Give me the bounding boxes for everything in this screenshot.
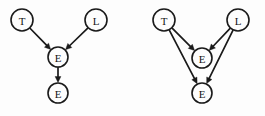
edge-l-to-e1 bbox=[66, 28, 88, 50]
node-label: T bbox=[161, 15, 168, 27]
node-label: E bbox=[55, 88, 62, 100]
edge-e1-to-e2 bbox=[55, 68, 61, 83]
causal-diagrams-svg: TLEETLEE bbox=[0, 0, 265, 116]
node-label: L bbox=[93, 15, 100, 27]
node-e1[interactable]: E bbox=[48, 47, 68, 67]
edge-t-to-e1 bbox=[30, 28, 51, 49]
node-l[interactable]: L bbox=[85, 9, 107, 31]
node-e2[interactable]: E bbox=[192, 83, 212, 103]
node-l[interactable]: L bbox=[227, 9, 249, 31]
node-t[interactable]: T bbox=[11, 9, 33, 31]
edge-t-to-e1 bbox=[172, 28, 194, 50]
node-label: L bbox=[235, 15, 242, 27]
node-e2[interactable]: E bbox=[48, 83, 68, 103]
node-t[interactable]: T bbox=[153, 9, 175, 31]
node-label: E bbox=[199, 88, 206, 100]
arrowhead-icon bbox=[55, 77, 61, 83]
node-e1[interactable]: E bbox=[192, 48, 212, 68]
edge-l-to-e1 bbox=[209, 28, 230, 50]
nodes-layer: TLEETLEE bbox=[11, 9, 249, 103]
figure-canvas: TLEETLEE bbox=[0, 0, 265, 116]
node-label: T bbox=[19, 15, 26, 27]
node-label: E bbox=[55, 52, 62, 64]
node-label: E bbox=[199, 53, 206, 65]
